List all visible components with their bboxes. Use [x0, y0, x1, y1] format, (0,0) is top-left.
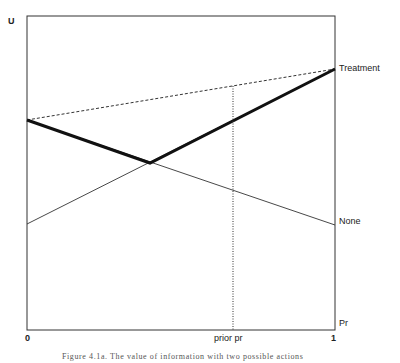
none-label: None [339, 216, 361, 226]
x-tick-1: 1 [331, 333, 336, 343]
max-utility-line [27, 69, 335, 163]
x-tick-0: 0 [25, 333, 30, 343]
x-axis-label: Pr [339, 318, 348, 328]
y-axis-label: U [8, 16, 15, 26]
treatment-label: Treatment [339, 63, 380, 73]
figure-caption: Figure 4.1a. The value of information wi… [62, 352, 303, 361]
prior-pr-label: prior pr [214, 333, 243, 343]
perfect-info-line [27, 69, 335, 120]
decision-diagram [0, 0, 400, 363]
plot-frame [27, 16, 335, 330]
